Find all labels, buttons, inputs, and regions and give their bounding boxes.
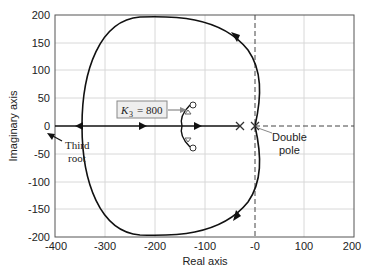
svg-text:150: 150 — [32, 37, 50, 49]
third-root-label-1: Third — [65, 139, 90, 151]
svg-text:-50: -50 — [34, 148, 50, 160]
arrow-right-icon — [139, 122, 147, 130]
y-axis-label: Imaginary axis — [7, 90, 19, 161]
svg-text:-200: -200 — [144, 240, 166, 252]
gain-label: K — [120, 104, 129, 116]
zero-marker — [190, 102, 196, 108]
svg-text:0: 0 — [44, 120, 50, 132]
y-tick-labels: 200 150 100 50 0 -50 -100 -150 -200 — [28, 9, 50, 243]
double-pole-pointer — [258, 128, 272, 133]
gain-sub: 3 — [129, 110, 133, 119]
zero-marker — [190, 145, 196, 151]
third-root-label-2: root — [68, 152, 86, 164]
svg-text:-100: -100 — [194, 240, 216, 252]
svg-text:50: 50 — [38, 92, 50, 104]
x-axis-label: Real axis — [182, 255, 228, 267]
svg-text:-0: -0 — [250, 240, 260, 252]
double-pole-label-1: Double — [272, 131, 307, 143]
svg-text:-300: -300 — [94, 240, 116, 252]
svg-text:200: 200 — [32, 9, 50, 21]
double-pole-label-2: pole — [279, 144, 300, 156]
svg-text:-150: -150 — [28, 203, 50, 215]
svg-text:-100: -100 — [28, 176, 50, 188]
svg-text:200: 200 — [343, 240, 361, 252]
x-tick-labels: -400 -300 -200 -100 -0 100 200 — [45, 240, 361, 252]
root-locus-chart: K 3 = 800 Third root Double pole 200 150… — [0, 0, 381, 274]
gain-value: = 800 — [137, 104, 163, 116]
svg-text:-400: -400 — [45, 240, 67, 252]
arrow-right-icon — [194, 122, 202, 130]
svg-text:100: 100 — [32, 64, 50, 76]
svg-text:100: 100 — [295, 240, 313, 252]
